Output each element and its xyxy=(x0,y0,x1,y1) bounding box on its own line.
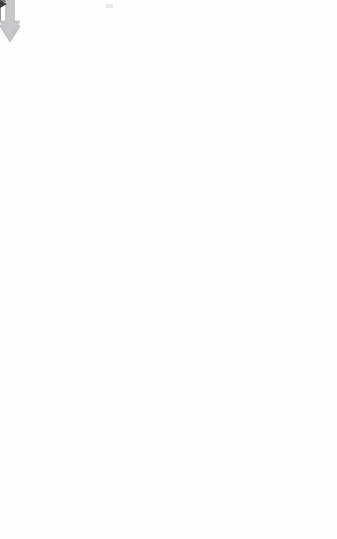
flowchart-canvas xyxy=(0,0,337,539)
feedback-loop-arrowhead-icon xyxy=(0,0,7,8)
scan-artifact xyxy=(106,4,113,8)
